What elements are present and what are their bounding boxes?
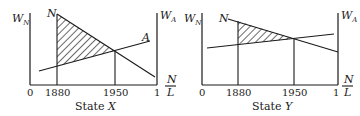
tick-1950: 1950 <box>103 87 128 98</box>
curve-n-label: N <box>218 12 229 25</box>
panel-state-y: WN WA N 0 1880 1950 1 N L State Y <box>184 9 357 113</box>
tick-1: 1 <box>333 87 339 98</box>
curve-a-label: A <box>141 31 150 44</box>
tick-1: 1 <box>154 87 160 98</box>
diagram-canvas: WN WA N A 0 1880 1950 1 N L State X WN W… <box>0 0 360 116</box>
x-axis-label-numerator: N <box>166 73 177 86</box>
caption-state-x: State X <box>75 100 117 113</box>
tick-0: 0 <box>27 87 33 98</box>
panel-state-x: WN WA N A 0 1880 1950 1 N L State X <box>12 7 177 113</box>
left-axis-label: WN <box>12 12 30 27</box>
left-axis-label: WN <box>184 12 202 27</box>
caption-state-y: State Y <box>252 100 294 113</box>
right-axis-label: WA <box>160 9 176 24</box>
right-axis-label: WA <box>341 9 357 24</box>
curve-n-label: N <box>46 7 57 20</box>
x-axis-label-denominator: L <box>166 86 174 99</box>
tick-1880: 1880 <box>226 87 251 98</box>
tick-0: 0 <box>199 87 205 98</box>
tick-1880: 1880 <box>45 87 70 98</box>
x-axis-label-numerator: N <box>343 73 354 86</box>
tick-1950: 1950 <box>282 87 307 98</box>
x-axis-label-denominator: L <box>343 86 351 99</box>
